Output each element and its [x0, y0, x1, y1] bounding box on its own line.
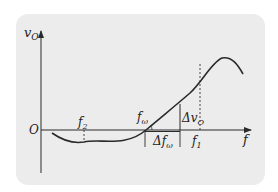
x-axis-label: f [242, 132, 250, 147]
origin-label: O [29, 123, 39, 137]
y-axis-label: vO [24, 25, 39, 42]
delta-f-label: Δfω [152, 134, 173, 150]
f-omega-label: fω [136, 110, 148, 126]
delta-v-label: ΔvO [181, 111, 204, 127]
diagram-canvas: vO O f f2 f1 fω ΔvO Δfω [0, 0, 278, 192]
f2-label: f2 [77, 115, 88, 131]
f1-label: f1 [191, 134, 202, 150]
